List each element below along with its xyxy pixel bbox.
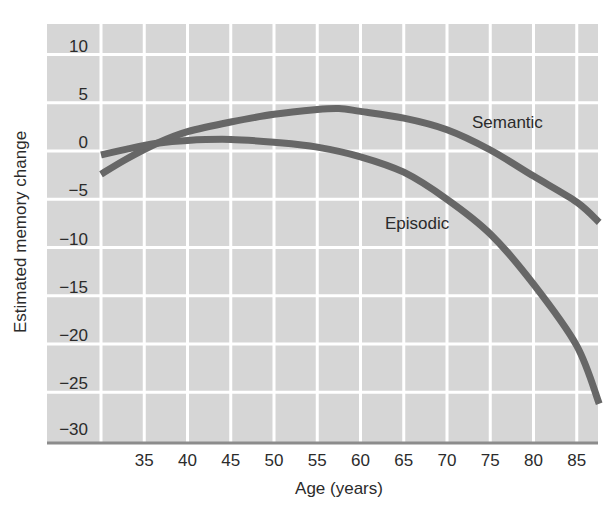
x-tick-labels: 3540455055606570758085 [135, 451, 586, 470]
x-tick-label: 50 [265, 451, 284, 470]
y-tick-label: −25 [59, 374, 88, 393]
y-tick-label: 5 [79, 85, 88, 104]
x-tick-label: 80 [524, 451, 543, 470]
x-tick-label: 70 [438, 451, 457, 470]
x-tick-label: 85 [567, 451, 586, 470]
x-tick-label: 65 [394, 451, 413, 470]
chart: 1050−5−10−15−20−25−30 354045505560657075… [0, 0, 611, 513]
y-tick-label: −20 [59, 326, 88, 345]
series-label-semantic: Semantic [472, 113, 543, 132]
y-tick-label: −5 [69, 181, 88, 200]
x-tick-label: 40 [178, 451, 197, 470]
y-tick-label: −30 [59, 420, 88, 439]
y-tick-label: 0 [79, 133, 88, 152]
x-axis-title: Age (years) [295, 479, 383, 498]
x-tick-label: 55 [308, 451, 327, 470]
series-label-episodic: Episodic [385, 214, 450, 233]
x-tick-label: 35 [135, 451, 154, 470]
x-tick-label: 60 [351, 451, 370, 470]
plot-area [47, 24, 598, 443]
x-tick-label: 75 [481, 451, 500, 470]
line-chart: 1050−5−10−15−20−25−30 354045505560657075… [0, 0, 611, 513]
y-tick-label: 10 [69, 37, 88, 56]
y-tick-label: −15 [59, 278, 88, 297]
y-tick-label: −10 [59, 230, 88, 249]
x-tick-label: 45 [221, 451, 240, 470]
y-axis-title: Estimated memory change [11, 131, 30, 333]
